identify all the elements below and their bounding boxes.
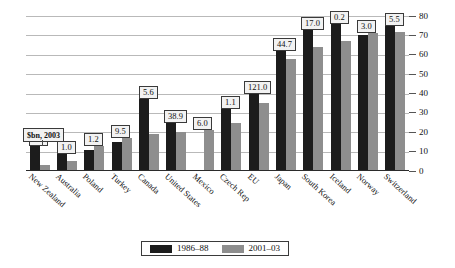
bar-1986-88-poland [84, 150, 94, 171]
bar-1986-88-norway [358, 35, 368, 171]
y-tick-0: 0 [409, 166, 424, 176]
y-tick-10: 10 [409, 147, 428, 157]
bar-2001-03-poland [94, 146, 104, 171]
data-label-poland: 1.2 [84, 133, 103, 146]
data-label-eu: 121.0 [244, 81, 271, 94]
bar-2001-03-norway [368, 33, 378, 171]
bar-2001-03-turkey [122, 138, 132, 171]
x-label-norway: Norway [355, 172, 381, 197]
bar-2001-03-canada [149, 134, 159, 171]
y-tick-label: 10 [419, 147, 428, 156]
bar-2001-03-japan [286, 59, 296, 171]
y-tick-mark [409, 151, 416, 152]
y-tick-mark [409, 171, 416, 172]
x-label-mexico: Mexico [191, 172, 216, 196]
bar-group [81, 16, 108, 171]
bar-series-container [26, 16, 409, 171]
bar-1986-88-canada [139, 99, 149, 171]
bar-2001-03-mexico [204, 130, 214, 171]
y-tick-mark [409, 132, 416, 133]
y-tick-40: 40 [409, 89, 428, 99]
bar-2001-03-south-korea [313, 47, 323, 171]
x-label-turkey: Turkey [109, 172, 133, 195]
data-label-czech-rep: 1.1 [221, 96, 240, 109]
x-label-switzerland: Switzerland [382, 172, 418, 206]
bar-2001-03-iceland [341, 41, 351, 171]
legend-label-1986-88: 1986–88 [177, 244, 209, 253]
bar-group [26, 16, 53, 171]
bar-2001-03-czech-rep [231, 123, 241, 171]
bar-group [108, 16, 135, 171]
bar-1986-88-new-zealand [30, 146, 40, 171]
bar-2001-03-united-states [176, 132, 186, 171]
bar-group [382, 16, 409, 171]
x-label-poland: Poland [81, 172, 105, 194]
y-tick-50: 50 [409, 69, 428, 79]
bar-1986-88-switzerland [385, 26, 395, 171]
bar-1986-88-australia [57, 154, 67, 171]
bar-1986-88-united-states [166, 123, 176, 171]
units-annotation: $bn, 2003 [23, 128, 64, 142]
y-tick-label: 50 [419, 70, 428, 79]
bar-group [163, 16, 190, 171]
plot-area [26, 16, 409, 171]
bar-group [190, 16, 217, 171]
bar-1986-88-japan [276, 51, 286, 171]
y-tick-mark [409, 74, 416, 75]
x-label-iceland: Iceland [328, 172, 353, 195]
data-label-south-korea: 17.0 [301, 17, 324, 30]
y-tick-mark [409, 93, 416, 94]
x-label-canada: Canada [136, 172, 161, 196]
chart-legend: 1986–88 2001–03 [141, 241, 289, 256]
bar-1986-88-iceland [331, 24, 341, 171]
data-label-mexico: 6.0 [193, 117, 212, 130]
y-tick-60: 60 [409, 50, 428, 60]
y-tick-mark [409, 112, 416, 113]
y-tick-label: 70 [419, 31, 428, 40]
y-tick-label: 30 [419, 108, 428, 117]
data-label-australia: 1.0 [57, 141, 76, 154]
y-tick-label: 0 [419, 167, 424, 176]
x-axis-line [26, 170, 409, 172]
bar-1986-88-turkey [112, 142, 122, 171]
bar-group [354, 16, 381, 171]
bar-chart: 0.21.01.29.55.638.96.01.1121.044.717.00.… [0, 0, 455, 268]
bar-1986-88-eu [249, 94, 259, 172]
y-axis: 80706050403020100 [409, 16, 455, 173]
data-label-switzerland: 5.5 [385, 13, 404, 26]
data-label-norway: 3.0 [357, 20, 376, 33]
y-tick-mark [409, 16, 416, 17]
y-tick-label: 40 [419, 89, 428, 98]
bar-group [327, 16, 354, 171]
bar-1986-88-czech-rep [221, 109, 231, 171]
data-label-turkey: 9.5 [111, 125, 130, 138]
x-label-eu: EU [246, 172, 260, 186]
bar-2001-03-eu [259, 103, 269, 171]
y-tick-mark [409, 54, 416, 55]
data-label-canada: 5.6 [139, 86, 158, 99]
bar-group [218, 16, 245, 171]
y-tick-label: 20 [419, 128, 428, 137]
legend-swatch-2001-03 [222, 245, 244, 253]
legend-label-2001-03: 2001–03 [249, 244, 281, 253]
data-label-iceland: 0.2 [330, 11, 349, 24]
y-tick-80: 80 [409, 11, 428, 21]
y-tick-70: 70 [409, 30, 428, 40]
legend-item-0[interactable]: 1986–88 [150, 244, 209, 253]
y-tick-label: 60 [419, 50, 428, 59]
y-tick-mark [409, 35, 416, 36]
bar-group [300, 16, 327, 171]
data-label-united-states: 38.9 [164, 110, 187, 123]
y-tick-20: 20 [409, 127, 428, 137]
x-label-japan: Japan [273, 172, 293, 192]
bar-2001-03-switzerland [395, 32, 405, 172]
bar-1986-88-south-korea [303, 30, 313, 171]
x-axis-labels: New ZealandAustraliaPolandTurkeyCanadaUn… [26, 172, 409, 234]
legend-item-1[interactable]: 2001–03 [222, 244, 281, 253]
data-label-japan: 44.7 [273, 38, 296, 51]
y-tick-label: 80 [419, 12, 428, 21]
annotation-leader-line [42, 140, 43, 146]
legend-swatch-1986-88 [150, 245, 172, 253]
y-tick-30: 30 [409, 108, 428, 118]
